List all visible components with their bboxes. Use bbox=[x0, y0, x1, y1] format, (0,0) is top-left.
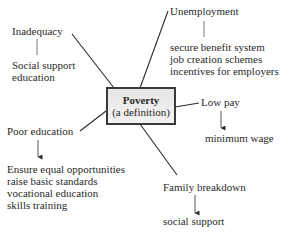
cause-unemployment: Unemployment bbox=[170, 5, 238, 17]
remedy-item: job creation schemes bbox=[170, 53, 279, 65]
cause-family-breakdown: Family breakdown bbox=[163, 181, 246, 193]
poverty-mind-map: Poverty (a definition) Inadequacy Social… bbox=[0, 0, 284, 234]
remedies-poor-education: Ensure equal opportunities raise basic s… bbox=[7, 163, 125, 211]
center-title: Poverty bbox=[108, 94, 174, 106]
remedy-item: social support bbox=[163, 215, 224, 227]
remedies-unemployment: secure benefit system job creation schem… bbox=[170, 41, 279, 77]
cause-inadequacy: Inadequacy bbox=[12, 25, 63, 37]
remedies-low-pay: minimum wage bbox=[205, 132, 274, 144]
remedy-item: incentives for employers bbox=[170, 65, 279, 77]
remedy-item: Social support bbox=[12, 59, 75, 71]
cause-low-pay: Low pay bbox=[201, 96, 240, 108]
cause-poor-education: Poor education bbox=[7, 125, 73, 137]
center-subtitle: (a definition) bbox=[108, 106, 174, 118]
remedy-item: secure benefit system bbox=[170, 41, 279, 53]
remedy-item: education bbox=[12, 71, 75, 83]
remedy-item: vocational education bbox=[7, 187, 125, 199]
remedy-item: raise basic standards bbox=[7, 175, 125, 187]
link-low-pay bbox=[175, 103, 199, 107]
remedy-item: skills training bbox=[7, 199, 125, 211]
link-unemployment bbox=[140, 11, 168, 88]
center-node: Poverty (a definition) bbox=[106, 87, 176, 125]
remedies-family-breakdown: social support bbox=[163, 215, 224, 227]
remedy-item: minimum wage bbox=[205, 132, 274, 144]
link-family-breakdown bbox=[140, 124, 177, 175]
remedies-inadequacy: Social support education bbox=[12, 59, 75, 83]
link-poor-education bbox=[80, 111, 106, 131]
link-inadequacy bbox=[72, 34, 114, 88]
remedy-item: Ensure equal opportunities bbox=[7, 163, 125, 175]
